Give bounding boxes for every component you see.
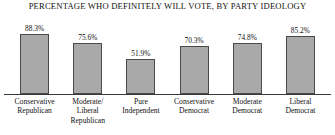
category-label-line: Democrat xyxy=(221,106,274,115)
category-label: ConservativeDemocrat xyxy=(168,97,221,116)
bar-rect xyxy=(180,46,209,94)
category-label: ModerateDemocrat xyxy=(221,97,274,116)
bar-value-label: 70.3% xyxy=(185,37,204,45)
category-label-line: Republican xyxy=(61,116,114,125)
category-label-line: Democrat xyxy=(168,106,221,115)
chart-title: PERCENTAGE WHO DEFINITELY WILL VOTE, BY … xyxy=(0,1,335,12)
bar-group: 74.8% xyxy=(233,16,262,94)
category-label: PureIndependent xyxy=(114,97,167,116)
category-label-line: Pure xyxy=(114,97,167,106)
plot-area: 88.3%75.6%51.9%70.3%74.8%85.2% xyxy=(8,16,327,94)
bar-rect xyxy=(233,43,262,94)
bar-chart-figure: PERCENTAGE WHO DEFINITELY WILL VOTE, BY … xyxy=(0,0,335,135)
bar-group: 70.3% xyxy=(180,16,209,94)
category-label-line: Conservative xyxy=(8,97,61,106)
bar-value-label: 51.9% xyxy=(131,50,150,58)
category-label-line: Independent xyxy=(114,106,167,115)
bar-rect xyxy=(20,34,49,94)
bar-group: 51.9% xyxy=(126,16,155,94)
bar-value-label: 75.6% xyxy=(78,34,97,42)
bar-value-label: 74.8% xyxy=(238,34,257,42)
bar-rect xyxy=(286,36,315,94)
category-label-line: Conservative xyxy=(168,97,221,106)
bar-group: 75.6% xyxy=(73,16,102,94)
category-label-line: Liberal xyxy=(274,97,327,106)
category-label-line: Moderate/ xyxy=(61,97,114,106)
x-axis-baseline xyxy=(4,94,331,95)
bar-value-label: 88.3% xyxy=(25,25,44,33)
category-label: LiberalDemocrat xyxy=(274,97,327,116)
bar-value-label: 85.2% xyxy=(291,27,310,35)
bar-rect xyxy=(126,59,155,94)
category-label-line: Republican xyxy=(8,106,61,115)
category-label: ConservativeRepublican xyxy=(8,97,61,116)
bar-group: 85.2% xyxy=(286,16,315,94)
x-axis-category-labels: ConservativeRepublicanModerate/LiberalRe… xyxy=(8,97,327,135)
category-label-line: Democrat xyxy=(274,106,327,115)
bar-group: 88.3% xyxy=(20,16,49,94)
category-label-line: Liberal xyxy=(61,106,114,115)
category-label-line: Moderate xyxy=(221,97,274,106)
category-label: Moderate/LiberalRepublican xyxy=(61,97,114,125)
bar-rect xyxy=(73,43,102,94)
